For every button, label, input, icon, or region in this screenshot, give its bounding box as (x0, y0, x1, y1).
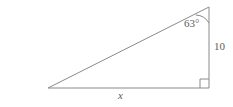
vertical-leg-label: 10 (214, 41, 225, 52)
angle-label: 63° (184, 18, 199, 29)
base-label: x (118, 90, 123, 101)
geometry-figure: 63° 10 x (0, 0, 233, 107)
right-angle-marker-icon (200, 79, 209, 88)
